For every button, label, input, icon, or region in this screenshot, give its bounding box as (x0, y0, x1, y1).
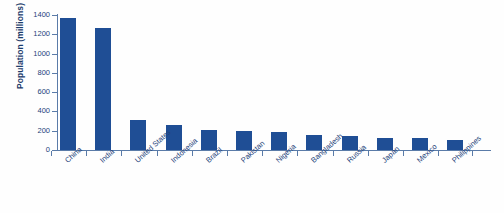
y-axis-tick-label: 1000 (20, 50, 50, 58)
y-axis-tick-label: 400 (20, 107, 50, 115)
x-axis-tick-mark (157, 151, 158, 156)
x-axis-tick-mark (227, 151, 228, 156)
y-axis-tick-label: 0 (20, 146, 50, 154)
bar (60, 18, 76, 150)
y-axis-tick-label: 1200 (20, 30, 50, 38)
x-axis-tick-mark (262, 151, 263, 156)
x-axis-tick-mark (121, 151, 122, 156)
y-axis-tick-label: 800 (20, 69, 50, 77)
x-axis-tick-mark (472, 151, 473, 156)
x-axis-tick-mark (403, 151, 404, 156)
x-axis-tick-mark (333, 151, 334, 156)
y-axis-tick-label: 200 (20, 127, 50, 135)
x-axis-tick-mark (51, 151, 52, 156)
bar (95, 28, 111, 150)
x-axis-tick-mark (86, 151, 87, 156)
x-axis-tick-mark (438, 151, 439, 156)
x-axis-tick-mark (297, 151, 298, 156)
x-axis-tick-mark (192, 151, 193, 156)
bar (130, 120, 146, 150)
y-axis-tick-label: 1400 (20, 11, 50, 19)
x-axis-tick-mark (368, 151, 369, 156)
y-axis-tick-label: 600 (20, 88, 50, 96)
plot-area (57, 15, 490, 150)
bar-chart: Population (millions) 140012001000800600… (0, 0, 504, 213)
